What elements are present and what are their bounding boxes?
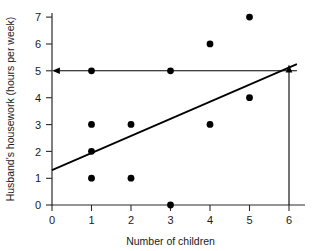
data-point: [246, 14, 253, 21]
x-tick-label-4: 4: [207, 214, 213, 226]
x-tick-label-6: 6: [286, 214, 292, 226]
vertical-prediction-arrow: [286, 65, 293, 205]
data-point: [207, 41, 214, 48]
data-points-layer: [88, 14, 253, 209]
data-point: [246, 94, 253, 101]
x-tick-label-2: 2: [128, 214, 134, 226]
x-tick-label-1: 1: [88, 214, 94, 226]
data-point: [167, 202, 174, 209]
x-tick-label-0: 0: [49, 214, 55, 226]
y-tick-label-1: 1: [35, 172, 41, 184]
data-point: [128, 175, 135, 182]
plot-canvas: 7 6 5 4 3 2 1 0 0 1 2 3 4 5 6: [0, 0, 318, 251]
arrow-head-left-icon: [52, 68, 60, 75]
y-tick-label-2: 2: [35, 146, 41, 158]
y-tick-label-7: 7: [35, 11, 41, 23]
regression-line: [52, 64, 297, 170]
x-tick-label-3: 3: [167, 214, 173, 226]
y-tick-label-5: 5: [35, 65, 41, 77]
y-axis-title: Husband's housework (hours per week): [4, 17, 16, 202]
y-tick-label-0: 0: [35, 199, 41, 211]
data-point: [167, 67, 174, 74]
x-tick-label-5: 5: [246, 214, 252, 226]
data-point: [88, 148, 95, 155]
data-point: [128, 121, 135, 128]
y-axis-ticks: [46, 17, 52, 205]
data-point: [88, 175, 95, 182]
x-axis-tick-labels: 0 1 2 3 4 5 6: [49, 214, 292, 226]
y-axis-tick-labels: 7 6 5 4 3 2 1 0: [35, 11, 41, 211]
x-axis-title: Number of children: [126, 235, 215, 247]
y-tick-label-3: 3: [35, 119, 41, 131]
data-point: [207, 121, 214, 128]
y-tick-label-4: 4: [35, 92, 41, 104]
data-point: [88, 121, 95, 128]
scatter-plot-figure: 7 6 5 4 3 2 1 0 0 1 2 3 4 5 6: [0, 0, 318, 251]
y-tick-label-6: 6: [35, 38, 41, 50]
data-point: [88, 67, 95, 74]
